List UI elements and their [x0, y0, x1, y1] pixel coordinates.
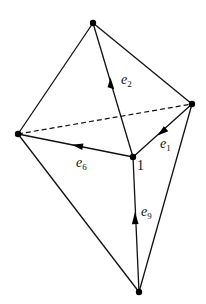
vertex-top [90, 20, 96, 26]
arrow-e1-icon [158, 126, 169, 135]
edge-top-center [93, 23, 133, 157]
vertex-left [15, 131, 21, 137]
label-e2: e2 [121, 72, 132, 89]
edge-top-left [18, 23, 93, 134]
vertex-bottom [136, 289, 142, 295]
label-e6: e6 [76, 155, 87, 172]
edge-top-right [93, 23, 192, 104]
edge-center-bottom [133, 157, 139, 292]
arrow-e2-icon [108, 78, 115, 90]
label-e9: e9 [141, 204, 152, 221]
polyhedron-diagram: e2 e1 e6 e9 1 [0, 0, 206, 304]
vertex-center [130, 154, 136, 160]
vertex-right [189, 101, 195, 107]
label-node-1: 1 [137, 158, 144, 173]
arrow-e9-icon [132, 212, 139, 224]
label-e1: e1 [160, 136, 171, 153]
